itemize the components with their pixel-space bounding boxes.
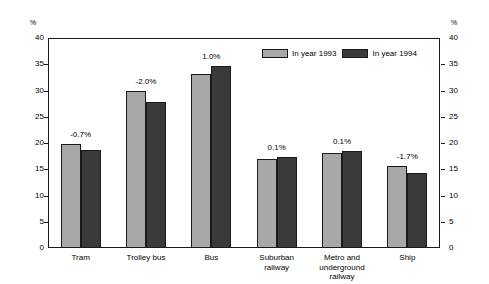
x-category-label-line: railway bbox=[244, 263, 309, 273]
bars-layer bbox=[48, 38, 440, 248]
y-tick-label-right-30: 30 bbox=[449, 87, 471, 95]
y-tick-mark-right-5 bbox=[441, 222, 445, 223]
y-tick-mark-right-10 bbox=[441, 196, 445, 197]
bar-1994 bbox=[277, 157, 297, 248]
bar-1993 bbox=[126, 91, 146, 249]
y-tick-label-left-25: 25 bbox=[22, 113, 44, 121]
bar-chart: % % 00551010151520202525303035354040 -0.… bbox=[0, 0, 489, 284]
legend-label-1993: In year 1993 bbox=[292, 49, 336, 58]
x-category-label: Suburbanrailway bbox=[244, 253, 309, 272]
bar-annotation: -0.7% bbox=[48, 131, 113, 139]
legend-item-1993: In year 1993 bbox=[262, 49, 336, 58]
x-category-label: Metro andundergroundrailway bbox=[309, 253, 374, 282]
bar-1994 bbox=[407, 173, 427, 248]
bar-1994 bbox=[146, 102, 166, 248]
y-tick-label-right-20: 20 bbox=[449, 139, 471, 147]
x-category-label: Bus bbox=[179, 253, 244, 263]
x-category-label-line: underground bbox=[309, 263, 374, 273]
y-tick-label-right-40: 40 bbox=[449, 34, 471, 42]
y-tick-label-right-15: 15 bbox=[449, 165, 471, 173]
bar-1993 bbox=[257, 159, 277, 248]
bar-annotation: 0.1% bbox=[244, 144, 309, 152]
y-tick-mark-right-35 bbox=[441, 64, 445, 65]
legend-swatch-1993 bbox=[262, 49, 288, 58]
bar-group bbox=[191, 38, 231, 248]
y-tick-mark-right-30 bbox=[441, 91, 445, 92]
y-tick-label-right-25: 25 bbox=[449, 113, 471, 121]
x-category-label-line: Ship bbox=[375, 253, 440, 263]
bar-annotation: -1.7% bbox=[375, 153, 440, 161]
bar-1994 bbox=[342, 151, 362, 248]
y-tick-label-left-20: 20 bbox=[22, 139, 44, 147]
bar-annotation: -2.0% bbox=[113, 78, 178, 86]
legend-label-1994: In year 1994 bbox=[372, 49, 416, 58]
y-tick-label-left-15: 15 bbox=[22, 165, 44, 173]
bar-1994 bbox=[211, 66, 231, 248]
y-tick-label-right-35: 35 bbox=[449, 60, 471, 68]
y-tick-label-left-35: 35 bbox=[22, 60, 44, 68]
x-category-label-line: railway bbox=[309, 272, 374, 282]
legend: In year 1993 In year 1994 bbox=[262, 49, 417, 58]
bar-1993 bbox=[322, 153, 342, 248]
y-tick-label-left-10: 10 bbox=[22, 192, 44, 200]
bar-1993 bbox=[387, 166, 407, 248]
y-tick-label-left-30: 30 bbox=[22, 87, 44, 95]
x-category-label: Tram bbox=[48, 253, 113, 263]
y-tick-mark-right-15 bbox=[441, 169, 445, 170]
y-axis-unit-left: % bbox=[30, 19, 36, 26]
bar-1993 bbox=[191, 74, 211, 248]
bar-1993 bbox=[61, 144, 81, 248]
bar-group bbox=[126, 38, 166, 248]
x-category-label: Trolley bus bbox=[113, 253, 178, 263]
legend-item-1994: In year 1994 bbox=[342, 49, 416, 58]
y-tick-label-left-40: 40 bbox=[22, 34, 44, 42]
bar-1994 bbox=[81, 150, 101, 248]
y-tick-label-left-0: 0 bbox=[22, 244, 44, 252]
x-category-label-line: Bus bbox=[179, 253, 244, 263]
x-category-label-line: Tram bbox=[48, 253, 113, 263]
x-category-label-line: Metro and bbox=[309, 253, 374, 263]
bar-annotation: 0.1% bbox=[309, 138, 374, 146]
y-axis-unit-right: % bbox=[451, 19, 457, 26]
y-tick-label-left-5: 5 bbox=[22, 218, 44, 226]
y-tick-label-right-10: 10 bbox=[449, 192, 471, 200]
bar-group bbox=[61, 38, 101, 248]
bar-annotation: 1.0% bbox=[179, 53, 244, 61]
x-category-label: Ship bbox=[375, 253, 440, 263]
bar-group bbox=[387, 38, 427, 248]
y-tick-label-right-5: 5 bbox=[449, 218, 471, 226]
y-tick-mark-right-25 bbox=[441, 117, 445, 118]
y-tick-mark-right-20 bbox=[441, 143, 445, 144]
y-tick-label-right-0: 0 bbox=[449, 244, 471, 252]
x-category-label-line: Suburban bbox=[244, 253, 309, 263]
legend-swatch-1994 bbox=[342, 49, 368, 58]
x-category-label-line: Trolley bus bbox=[113, 253, 178, 263]
